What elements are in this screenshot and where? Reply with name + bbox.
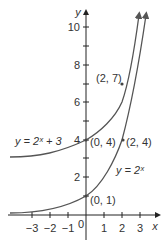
label-curve-2x-plus-3: y = 2ˣ + 3 [14, 135, 62, 147]
x-axis-label: x [151, 220, 158, 232]
curve-2x [10, 15, 146, 213]
x-tick-label: 2 [119, 222, 125, 234]
y-tick-label: 6 [74, 96, 80, 108]
label-point-2-7: (2, 7) [96, 72, 122, 84]
point-0-1 [84, 194, 87, 197]
label-curve-2x: y = 2ˣ [115, 164, 145, 176]
label-point-0-4: (0, 4) [90, 136, 116, 148]
point-2-4 [121, 138, 124, 141]
x-tick-label: −2 [44, 222, 57, 234]
x-tick-label: −1 [62, 222, 75, 234]
label-point-0-1: (0, 1) [90, 194, 116, 206]
label-point-2-4: (2, 4) [126, 136, 152, 148]
x-tick-label: 3 [137, 222, 143, 234]
origin-label: 0 [78, 218, 84, 230]
y-axis-label: y [74, 6, 82, 18]
exponential-graph: −3 −2 −1 0 1 2 3 x 2 4 6 8 10 y (2, 7) (… [0, 0, 166, 252]
y-tick-label: 2 [74, 171, 80, 183]
y-tick-label: 8 [74, 59, 80, 71]
x-tick-label: −3 [26, 222, 39, 234]
x-tick-label: 1 [101, 222, 107, 234]
y-tick-label: 10 [68, 21, 80, 33]
point-0-4 [84, 138, 87, 141]
